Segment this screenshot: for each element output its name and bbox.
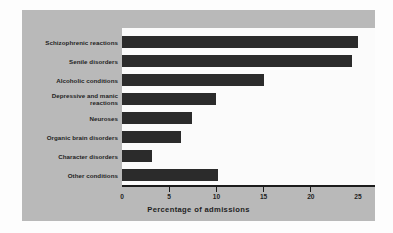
category-label-line: reactions [22,99,118,107]
category-label-line: Alcoholic conditions [22,77,118,85]
bar [122,150,152,162]
category-label-line: Character disorders [22,153,118,161]
chart-figure: 0510152025 Schizophrenic reactionsSenile… [0,0,393,233]
chart-panel: 0510152025 Schizophrenic reactionsSenile… [22,10,375,221]
category-label: Alcoholic conditions [22,77,118,85]
category-label-line: Other conditions [22,172,118,180]
category-label: Other conditions [22,172,118,180]
bar [122,74,264,86]
x-tick-label: 20 [299,193,323,200]
bar [122,169,218,181]
x-axis-label: Percentage of admissions [22,205,375,214]
category-label-line: Neuroses [22,115,118,123]
bar [122,93,216,105]
x-tick-mark [310,187,311,192]
x-tick-label: 5 [157,193,181,200]
category-label: Senile disorders [22,58,118,66]
x-tick-mark [169,187,170,192]
x-tick-label: 10 [204,193,228,200]
category-label-line: Schizophrenic reactions [22,39,118,47]
category-label-line: Organic brain disorders [22,134,118,142]
category-label-line: Senile disorders [22,58,118,66]
category-label: Depressive and manicreactions [22,92,118,107]
category-label-line: Depressive and manic [22,92,118,100]
bar [122,131,181,143]
category-label: Schizophrenic reactions [22,39,118,47]
category-label: Organic brain disorders [22,134,118,142]
category-label: Neuroses [22,115,118,123]
x-axis-line [122,185,375,187]
category-label: Character disorders [22,153,118,161]
bar [122,112,192,124]
plot-area [122,28,375,185]
x-tick-mark [216,187,217,192]
x-tick-label: 15 [252,193,276,200]
x-tick-label: 25 [346,193,370,200]
x-tick-mark [263,187,264,192]
x-tick-label: 0 [110,193,134,200]
bar [122,36,358,48]
bar [122,55,352,67]
